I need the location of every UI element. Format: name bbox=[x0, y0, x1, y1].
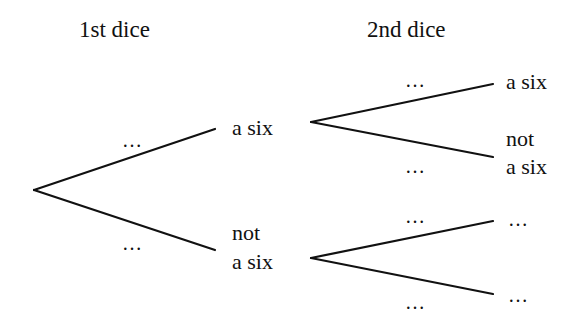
prob-first-six: … bbox=[122, 130, 143, 150]
outcome-six-not-six: a six bbox=[506, 155, 547, 179]
prob-first-not-six: … bbox=[122, 233, 143, 253]
outcome-first-not-six: a six bbox=[232, 250, 273, 274]
outcome-first-not: not bbox=[232, 221, 260, 245]
outcome-six-six: a six bbox=[506, 70, 547, 94]
outcome-first-six: a six bbox=[232, 116, 273, 140]
prob-not-six-lower: … bbox=[405, 292, 426, 312]
header-second-dice: 2nd dice bbox=[367, 18, 446, 42]
header-first-dice: 1st dice bbox=[79, 18, 150, 42]
branch-six-six bbox=[311, 84, 493, 122]
outcome-six-not: not bbox=[506, 127, 534, 151]
outcome-not-six-lower: … bbox=[508, 285, 529, 305]
prob-not-six-upper: … bbox=[405, 206, 426, 226]
branch-not-six-upper bbox=[311, 221, 493, 258]
branch-not-six-lower bbox=[311, 258, 493, 294]
branch-six-not-six bbox=[311, 122, 493, 157]
outcome-not-six-upper: … bbox=[508, 209, 529, 229]
prob-six-not-six: … bbox=[405, 156, 426, 176]
tree-lines bbox=[0, 0, 585, 332]
prob-six-six: … bbox=[405, 70, 426, 90]
